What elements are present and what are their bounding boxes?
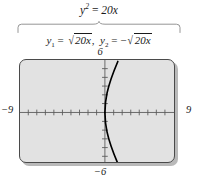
brace-icon — [17, 21, 181, 33]
main-equation-relation: = — [89, 4, 101, 16]
function-2-radical: √20x — [126, 33, 151, 46]
curve-y1 — [105, 61, 118, 112]
main-equation-rhs: 20x — [101, 4, 118, 16]
function-1-radical: √20x — [67, 33, 92, 46]
function-2-relation: = — [108, 34, 120, 46]
y-min-label: −6 — [1, 166, 198, 177]
function-2-radicand: 20x — [134, 33, 152, 46]
graphing-calculator-figure: y2 = 20x y1 = √20x, y2 = −√20x — [0, 0, 198, 189]
y-max-label: 6 — [1, 46, 198, 57]
main-equation: y2 = 20x — [0, 4, 198, 16]
radical-sign-icon: √ — [128, 34, 133, 46]
plot-area — [20, 60, 174, 162]
function-2: y2 = −√20x — [100, 34, 152, 46]
definitions-separator: , — [92, 34, 95, 46]
function-definitions: y1 = √20x, y2 = −√20x — [0, 33, 198, 46]
function-1: y1 = √20x — [46, 34, 91, 46]
x-min-label: −9 — [1, 104, 13, 115]
curve-y2 — [105, 112, 118, 162]
x-max-label: 9 — [186, 104, 191, 115]
radical-sign-icon: √ — [68, 34, 73, 46]
calculator-screen — [19, 59, 175, 163]
function-1-radicand: 20x — [74, 33, 92, 46]
function-1-relation: = — [55, 34, 67, 46]
